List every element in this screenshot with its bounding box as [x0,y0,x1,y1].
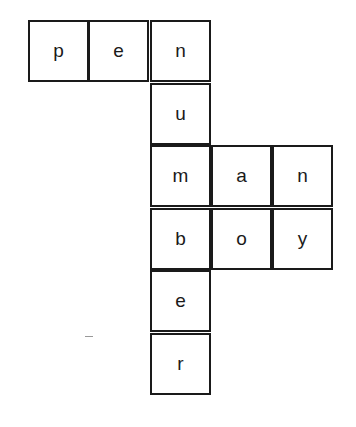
cell-letter: r [177,353,183,375]
grid-cell: m [150,145,211,207]
stray-mark [85,336,93,337]
cell-letter: p [53,40,64,62]
grid-cell: a [211,145,272,207]
cell-letter: n [297,165,308,187]
grid-cell: o [211,208,272,270]
grid-cell: b [150,208,211,270]
cell-letter: e [113,40,124,62]
grid-cell: e [88,20,149,82]
cell-letter: y [298,228,308,250]
cell-letter: u [175,103,186,125]
grid-cell: n [150,20,211,82]
grid-cell: e [150,270,211,332]
cell-letter: n [175,40,186,62]
grid-cell: n [272,145,333,207]
cell-letter: a [236,165,247,187]
cell-letter: b [175,228,186,250]
cell-letter: m [173,165,189,187]
grid-cell: r [150,333,211,395]
grid-cell: y [272,208,333,270]
cell-letter: e [175,290,186,312]
cell-letter: o [236,228,247,250]
grid-cell: u [150,83,211,145]
grid-cell: p [28,20,89,82]
